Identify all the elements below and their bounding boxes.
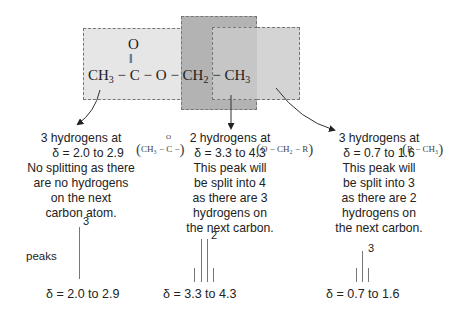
peak-2-count: 2 — [211, 229, 217, 241]
peak-triplet-center — [362, 251, 363, 282]
group-2-line: as there are 3 — [170, 191, 290, 206]
group-2-line: the next carbon. — [170, 221, 290, 236]
peak-quartet-outer — [213, 268, 214, 282]
group-1-line: are no hydrogens — [22, 176, 140, 191]
group-3-line: hydrogens on — [320, 206, 438, 221]
group-1-line: carbon atom. — [22, 206, 140, 221]
group-3-line: be split into 3 — [320, 176, 438, 191]
group-3-line: This peak will — [320, 161, 438, 176]
arrow-right-icon — [276, 88, 334, 130]
range-1: δ = 2.0 to 2.9 — [46, 287, 119, 301]
group-2-line: hydrogens on — [170, 206, 290, 221]
group-1-line: No splitting as there — [22, 161, 140, 176]
group-3-line: as there are 2 — [320, 191, 438, 206]
group-1-line: on the next — [22, 191, 140, 206]
peak-triplet-side — [368, 268, 369, 282]
group-1-description: 3 hydrogens at δ = 2.0 to 2.9 No splitti… — [22, 131, 140, 221]
group-2-line: This peak will — [170, 161, 290, 176]
group-3-formula: (R − CH₃) — [402, 141, 443, 158]
peaks-label: peaks — [26, 250, 57, 262]
peak-quartet-inner — [207, 239, 208, 282]
range-3: δ = 0.7 to 1.6 — [326, 287, 399, 301]
peak-1-count: 3 — [83, 215, 89, 227]
group-3-line: the next carbon. — [320, 221, 438, 236]
peak-singlet — [79, 227, 80, 279]
range-2: δ = 3.3 to 4.3 — [163, 287, 236, 301]
group-2-line: be split into 4 — [170, 176, 290, 191]
group-1-title: 3 hydrogens at — [22, 131, 140, 146]
arrow-left-icon — [78, 90, 100, 124]
peak-quartet-inner — [201, 239, 202, 282]
peak-triplet-side — [356, 268, 357, 282]
group-2-formula: (O − CH₂ − R) — [256, 141, 313, 158]
group-1-delta: δ = 2.0 to 2.9 — [22, 146, 140, 161]
peak-quartet-outer — [194, 268, 195, 282]
peak-3-count: 3 — [368, 242, 374, 254]
